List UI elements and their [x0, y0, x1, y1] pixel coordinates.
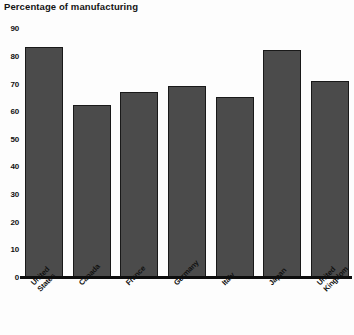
bar-united-states[interactable] [25, 47, 63, 277]
bar-slot [73, 28, 111, 277]
bar-slot [216, 28, 254, 277]
bar-united-kingdom[interactable] [311, 81, 349, 277]
x-label-slot: France [120, 279, 158, 335]
x-axis-labels: UnitedStates Canada France Germany Italy… [22, 279, 352, 335]
bar-france[interactable] [120, 92, 158, 277]
bar-slot [168, 28, 206, 277]
bar-germany[interactable] [168, 86, 206, 277]
x-label-slot: UnitedStates [25, 279, 63, 335]
x-label-slot: Canada [73, 279, 111, 335]
y-axis-tick: 90 [11, 24, 20, 33]
bar-japan[interactable] [263, 50, 301, 277]
y-axis-tick: 50 [11, 135, 20, 144]
y-axis-tick: 80 [11, 52, 20, 61]
chart-title: Percentage of manufacturing [4, 1, 138, 12]
x-label-slot: UnitedKingdom [311, 279, 349, 335]
bar-slot [120, 28, 158, 277]
bar-canada[interactable] [73, 105, 111, 277]
x-label-slot: Japan [263, 279, 301, 335]
y-axis: 90 80 70 60 50 40 30 20 10 0 [0, 28, 22, 280]
x-label-slot: Germany [168, 279, 206, 335]
bar-italy[interactable] [216, 97, 254, 277]
bar-slot [25, 28, 63, 277]
bar-series [22, 28, 352, 277]
y-axis-tick: 10 [11, 245, 20, 254]
y-axis-tick: 20 [11, 218, 20, 227]
y-axis-tick: 40 [11, 162, 20, 171]
y-axis-tick: 0 [15, 273, 19, 282]
bar-slot [263, 28, 301, 277]
y-axis-tick: 70 [11, 80, 20, 89]
y-axis-tick: 30 [11, 190, 20, 199]
y-axis-tick: 60 [11, 107, 20, 116]
x-label-slot: Italy [216, 279, 254, 335]
bar-chart: Percentage of manufacturing 90 80 70 60 … [0, 0, 354, 335]
bar-slot [311, 28, 349, 277]
